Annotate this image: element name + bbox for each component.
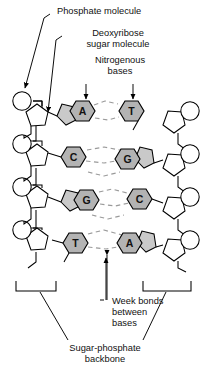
phosphate-leader bbox=[25, 14, 50, 88]
label-backbone-line2: backbone bbox=[30, 354, 180, 365]
bracket-right bbox=[143, 281, 191, 291]
dna-structure-diagram: A T C bbox=[0, 0, 210, 380]
backbone-leader-left bbox=[40, 292, 68, 340]
base-A-right: A bbox=[117, 231, 156, 253]
base-G-left: G bbox=[61, 190, 99, 211]
base-label-T: T bbox=[128, 105, 135, 117]
bracket-left bbox=[16, 281, 56, 291]
hydrogen-bonds-1 bbox=[94, 101, 119, 120]
base-T-left: T bbox=[63, 233, 88, 253]
base-T-right: T bbox=[119, 101, 144, 121]
base-label-A2: A bbox=[126, 237, 134, 249]
label-nitrogenous-line1: Nitrogenous bbox=[66, 55, 174, 66]
base-C-left: C bbox=[61, 147, 86, 167]
label-backbone-line1: Sugar-phosphate bbox=[30, 343, 180, 354]
base-A-left: A bbox=[57, 101, 95, 125]
label-weak-bonds-line3: bases bbox=[112, 318, 137, 329]
base-label-C2: C bbox=[136, 193, 144, 205]
sugar-phosphate-backbones bbox=[13, 92, 199, 272]
base-C-right: C bbox=[127, 189, 152, 209]
backbone-brackets bbox=[16, 281, 191, 291]
base-pair-row-4: T A bbox=[52, 230, 163, 262]
hydrogen-bonds-2 bbox=[86, 147, 121, 176]
label-deoxyribose-line1: Deoxyribose bbox=[66, 28, 170, 39]
label-weak-bonds-line1: Week bonds bbox=[112, 296, 164, 307]
base-pair-row-3: G C bbox=[48, 189, 163, 219]
base-label-C: C bbox=[70, 151, 78, 163]
hydrogen-bonds-4 bbox=[88, 230, 123, 249]
base-pair-row-1: A T bbox=[48, 101, 144, 130]
label-nitrogenous-line2: bases bbox=[66, 66, 174, 77]
label-weak-bonds-line2: between bbox=[112, 307, 147, 318]
hydrogen-bonds-3 bbox=[92, 189, 129, 219]
base-label-G: G bbox=[123, 153, 131, 165]
base-label-A: A bbox=[79, 105, 87, 117]
label-deoxyribose-line2: sugar molecule bbox=[56, 39, 180, 50]
base-label-G2: G bbox=[82, 194, 90, 206]
base-G-right: G bbox=[115, 147, 154, 169]
label-phosphate-molecule: Phosphate molecule bbox=[57, 6, 141, 17]
base-label-T2: T bbox=[72, 237, 79, 249]
base-pair-row-2: C G bbox=[48, 147, 163, 176]
